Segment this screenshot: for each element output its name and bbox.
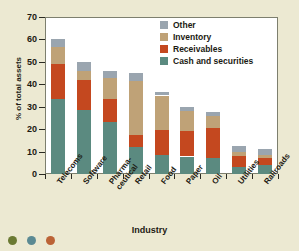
bar-segment-receivables xyxy=(206,128,220,157)
y-tick-mark xyxy=(39,107,45,108)
bar-segment-other xyxy=(129,73,143,81)
bar-segment-inventory xyxy=(206,116,220,129)
y-tick-label: 70 xyxy=(16,12,37,22)
chart-figure: % of total assets 010203040506070 Teleco… xyxy=(0,0,299,251)
bar-segment-receivables xyxy=(77,80,91,110)
legend-item: Inventory xyxy=(160,31,253,42)
bar-pharmaceutical xyxy=(103,17,117,174)
bar-segment-receivables xyxy=(232,156,246,167)
bar-segment-other xyxy=(51,39,65,47)
y-tick-label: 60 xyxy=(16,34,37,44)
y-tick-mark xyxy=(39,152,45,153)
bar-segment-inventory xyxy=(180,111,194,131)
footer-dot xyxy=(46,236,55,245)
bar-segment-inventory xyxy=(103,78,117,99)
y-tick-label: 40 xyxy=(16,79,37,89)
legend-swatch-icon xyxy=(160,33,168,41)
bar-segment-other xyxy=(206,112,220,115)
legend-item: Cash and securities xyxy=(160,55,253,66)
legend-item: Other xyxy=(160,19,253,30)
bar-segment-other xyxy=(232,146,246,152)
bar-segment-other xyxy=(77,62,91,71)
bar-segment-inventory xyxy=(258,155,272,158)
legend-label: Receivables xyxy=(173,44,222,54)
x-tick-mark xyxy=(45,174,46,179)
x-tick-mark xyxy=(226,174,227,179)
bar-segment-receivables xyxy=(129,135,143,147)
bar-segment-other xyxy=(258,149,272,155)
legend-label: Inventory xyxy=(173,32,211,42)
y-tick-label: 30 xyxy=(16,102,37,112)
bar-segment-receivables xyxy=(51,64,65,99)
bar-segment-inventory xyxy=(51,47,65,64)
footer-dot xyxy=(27,236,36,245)
bar-software xyxy=(77,17,91,174)
legend-label: Cash and securities xyxy=(173,56,253,66)
y-tick-label: 50 xyxy=(16,57,37,67)
bar-railroads xyxy=(258,17,272,174)
bar-segment-inventory xyxy=(232,152,246,156)
x-tick-label: Oil xyxy=(211,173,224,187)
chart-legend: OtherInventoryReceivablesCash and securi… xyxy=(160,19,253,67)
bar-segment-cash-and-securities xyxy=(206,158,220,174)
bar-telecoms xyxy=(51,17,65,174)
legend-label: Other xyxy=(173,20,196,30)
y-tick-mark xyxy=(39,62,45,63)
legend-item: Receivables xyxy=(160,43,253,54)
bar-segment-cash-and-securities xyxy=(51,99,65,174)
bar-segment-receivables xyxy=(180,131,194,156)
y-tick-mark xyxy=(39,17,45,18)
y-tick-mark xyxy=(39,39,45,40)
bar-segment-inventory xyxy=(155,96,169,131)
bar-segment-other xyxy=(155,92,169,95)
footer-dot xyxy=(8,236,17,245)
bar-segment-cash-and-securities xyxy=(103,122,117,174)
bar-segment-other xyxy=(180,107,194,111)
legend-swatch-icon xyxy=(160,57,168,65)
y-tick-mark xyxy=(39,129,45,130)
x-axis-title: Industry xyxy=(0,225,299,235)
y-tick-mark xyxy=(39,84,45,85)
bar-segment-inventory xyxy=(77,71,91,80)
footer-dots xyxy=(8,236,55,245)
legend-swatch-icon xyxy=(160,21,168,29)
bar-segment-receivables xyxy=(103,99,117,123)
bar-segment-other xyxy=(103,71,117,78)
y-tick-label: 10 xyxy=(16,147,37,157)
y-tick-label: 20 xyxy=(16,124,37,134)
y-tick-label: 0 xyxy=(16,169,37,179)
bar-retail xyxy=(129,17,143,174)
bar-segment-receivables xyxy=(155,130,169,155)
bar-segment-inventory xyxy=(129,81,143,135)
legend-swatch-icon xyxy=(160,45,168,53)
